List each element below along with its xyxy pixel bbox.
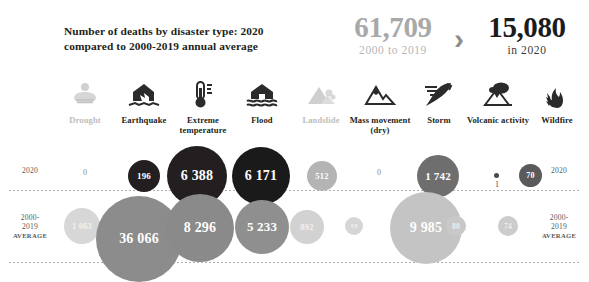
bubble-2020-mass-movement[interactable]: 0 <box>372 165 386 179</box>
total-2020-group: 15,080 in 2020 <box>468 12 586 57</box>
bubble-2020-earthquake[interactable]: 196 <box>128 160 160 192</box>
bubble-average-drought[interactable]: 1 063 <box>64 208 100 244</box>
drought-icon <box>56 76 114 114</box>
thermometer-icon <box>174 76 232 114</box>
page-title: Number of deaths by disaster type: 2020 … <box>64 24 304 53</box>
row-label-average-right: 2000- 2019 AVERAGE <box>536 213 582 241</box>
bubble-2020-flood[interactable]: 6 171 <box>232 147 290 205</box>
row-label-average-left-line1: 2000- <box>7 213 53 222</box>
total-2020-label: in 2020 <box>468 43 586 57</box>
column-label-extreme-temperature: Extreme temperature <box>170 116 236 136</box>
column-label-storm: Storm <box>406 116 472 126</box>
flood-icon <box>233 76 291 114</box>
row-label-2020-right: 2020 <box>536 166 582 175</box>
row-label-average-left: 2000- 2019 AVERAGE <box>7 213 53 241</box>
mountain-icon <box>351 76 409 114</box>
landslide-icon <box>292 76 350 114</box>
bubble-average-flood[interactable]: 5 233 <box>235 200 289 254</box>
divider-bottom <box>8 262 581 263</box>
divider-top <box>8 190 581 191</box>
bubble-2020-wildfire[interactable]: 70 <box>519 164 542 187</box>
bubble-2020-volcanic-activity[interactable] <box>494 173 499 178</box>
row-label-average-right-line3: AVERAGE <box>536 231 582 240</box>
row-label-average-left-line3: AVERAGE <box>7 231 53 240</box>
bubble-average-landslide[interactable]: 892 <box>290 210 324 244</box>
bubble-2020-storm[interactable]: 1 742 <box>417 155 459 197</box>
storm-icon <box>410 76 468 114</box>
bubble-average-wildfire[interactable]: 74 <box>498 216 518 236</box>
row-label-average-right-line2: 2019 <box>536 222 582 231</box>
row-label-average-left-line2: 2019 <box>7 222 53 231</box>
column-label-wildfire: Wildfire <box>524 116 589 126</box>
column-label-volcanic-activity: Volcanic activity <box>465 116 531 126</box>
row-label-average-right-line1: 2000- <box>536 213 582 222</box>
bubble-average-mass-movement[interactable]: 19 <box>345 217 363 235</box>
column-label-earthquake: Earthquake <box>111 116 177 126</box>
column-label-mass-movement: Mass movement (dry) <box>347 116 413 136</box>
earthquake-icon <box>115 76 173 114</box>
column-label-flood: Flood <box>229 116 295 126</box>
header: Number of deaths by disaster type: 2020 … <box>0 10 589 66</box>
bubble-2020-volcanic-activity-label: 1 <box>482 180 512 189</box>
bubble-2020-landslide[interactable]: 512 <box>307 161 337 191</box>
total-2020-value: 15,080 <box>468 12 586 43</box>
column-label-landslide: Landslide <box>288 116 354 126</box>
volcano-icon <box>469 76 527 114</box>
wildfire-icon <box>528 76 586 114</box>
row-label-2020-left: 2020 <box>7 166 53 175</box>
bubble-average-volcanic-activity[interactable]: 80 <box>446 216 466 236</box>
bubble-2020-drought[interactable]: 0 <box>78 165 92 179</box>
column-label-drought: Drought <box>52 116 118 126</box>
bubble-average-extreme-temperature[interactable]: 8 296 <box>166 194 234 262</box>
